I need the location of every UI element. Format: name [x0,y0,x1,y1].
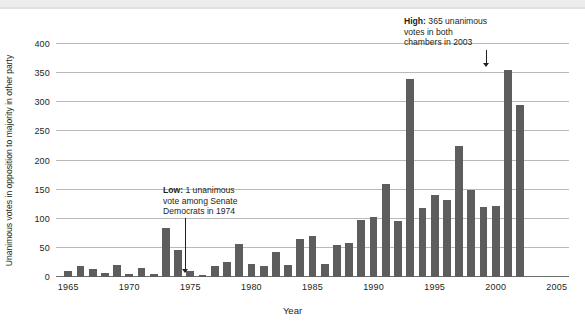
bar-1994 [419,208,427,277]
x-tick-label-1975: 1975 [180,282,201,292]
y-tick-label-50: 50 [40,243,50,253]
y-tick-label-0: 0 [45,272,50,282]
annotation-high-line-3: chambers in 2003 [404,37,487,48]
bar-1973 [162,228,170,277]
bar-1984 [296,239,304,277]
bar-1987 [333,245,341,277]
y-tick-label-150: 150 [34,185,50,195]
bar-1965 [64,271,72,277]
bar-1982 [272,252,280,277]
annotation-low-leader-line [185,218,186,270]
bar-1989 [357,220,365,277]
y-tick-label-300: 300 [34,97,50,107]
bar-1983 [284,265,292,277]
bar-1980 [248,264,256,277]
bar-1970 [125,274,133,277]
clipped-title-band [0,0,585,9]
bar-1988 [345,243,353,277]
x-tick-label-1980: 1980 [241,282,262,292]
bar-1969 [113,265,121,277]
bar-1996 [443,200,451,277]
bar-1990 [370,217,378,277]
annotation-low: Low: 1 unanimous vote among Senate Democ… [163,185,238,217]
bar-2002 [516,105,524,277]
annotation-high-leader-line [486,50,487,64]
bar-1972 [150,274,158,277]
bar-series [56,44,569,277]
x-axis-title: Year [0,305,585,316]
annotation-low-arrowhead [182,269,188,273]
bar-1999 [480,207,488,277]
bar-1997 [455,146,463,277]
annotation-high-prefix: High: [404,16,426,26]
bar-1991 [382,184,390,277]
bar-1985 [309,236,317,277]
annotation-low-text-1: 1 unanimous [185,185,234,195]
bar-1993 [406,79,414,277]
annotation-high: High: 365 unanimous votes in both chambe… [404,16,487,48]
plot-area: 050100150200250300350400 [56,44,569,277]
annotation-high-text-1: 365 unanimous [428,16,487,26]
y-axis-title: Unanimous votes in opposition to majorit… [2,44,16,277]
annotation-high-line-2: votes in both [404,27,487,38]
x-tick-label-1970: 1970 [119,282,140,292]
y-tick-label-350: 350 [34,68,50,78]
y-tick-label-200: 200 [34,156,50,166]
bar-1967 [89,269,97,277]
annotation-low-line-2: vote among Senate [163,196,238,207]
bar-1978 [223,262,231,277]
annotation-low-line-3: Democrats in 1974 [163,206,238,217]
bar-1977 [211,266,219,277]
bar-1995 [431,195,439,277]
annotation-high-arrowhead [483,63,489,67]
x-tick-label-1995: 1995 [424,282,445,292]
bar-1979 [235,244,243,277]
bar-1968 [101,273,109,277]
bar-1974 [174,250,182,277]
bar-1971 [138,268,146,277]
annotation-low-prefix: Low: [163,185,183,195]
bar-2001 [504,70,512,277]
annotation-high-line-1: High: 365 unanimous [404,16,487,27]
y-tick-label-100: 100 [34,214,50,224]
y-tick-label-400: 400 [34,39,50,49]
annotation-low-line-1: Low: 1 unanimous [163,185,238,196]
chart-figure: Unanimous votes in opposition to majorit… [0,0,585,336]
bar-1976 [199,275,207,277]
x-tick-label-1990: 1990 [363,282,384,292]
x-tick-label-1965: 1965 [58,282,79,292]
bar-1986 [321,264,329,277]
bar-1981 [260,266,268,277]
bar-1992 [394,221,402,277]
bar-1966 [77,266,85,277]
x-tick-label-2000: 2000 [485,282,506,292]
x-tick-label-1985: 1985 [302,282,323,292]
bar-1998 [467,190,475,277]
bar-2000 [492,206,500,277]
y-tick-label-250: 250 [34,126,50,136]
x-tick-label-2005: 2005 [546,282,567,292]
